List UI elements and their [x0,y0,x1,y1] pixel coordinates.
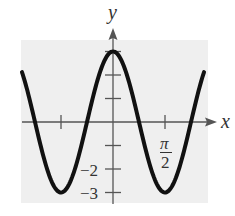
y-axis-label: y [106,1,117,24]
x-axis-label: x [220,110,230,132]
x-tick-label-pi-denominator: 2 [161,153,170,172]
y-tick-label-neg3: −3 [80,184,98,203]
function-graph: y x −2 −3 π 2 [0,0,235,216]
x-tick-label-pi-numerator: π [160,134,169,153]
y-tick-label-neg2: −2 [80,161,98,180]
